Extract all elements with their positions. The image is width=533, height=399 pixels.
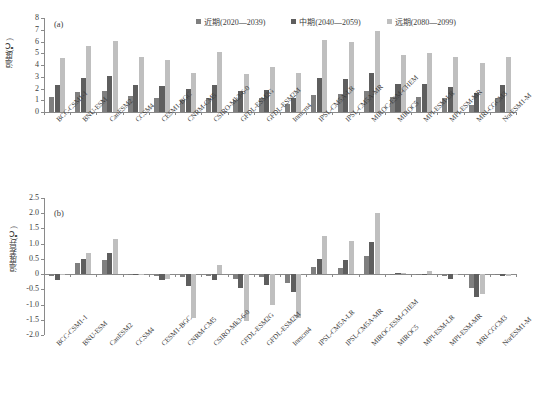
y-tick-label: 0 bbox=[10, 108, 39, 116]
bar bbox=[427, 271, 432, 274]
bar bbox=[349, 241, 354, 274]
chart-panel-a: 温度(℃) (a) 012345678 近期(2020—2039)中期(2040… bbox=[0, 0, 524, 190]
bar bbox=[375, 213, 380, 274]
bar bbox=[159, 86, 164, 112]
bar bbox=[364, 256, 369, 274]
bar bbox=[311, 267, 316, 275]
bar bbox=[390, 274, 395, 275]
bar bbox=[102, 260, 107, 274]
bar bbox=[322, 236, 327, 274]
bar bbox=[395, 273, 400, 275]
bar bbox=[453, 57, 458, 112]
bar bbox=[349, 42, 354, 112]
y-tick-label: 4 bbox=[10, 61, 39, 69]
y-tick-label: 2.0 bbox=[10, 209, 39, 217]
bar bbox=[422, 274, 427, 275]
bar bbox=[442, 274, 447, 276]
bar bbox=[191, 274, 196, 318]
y-tick-label: -2.0 bbox=[10, 331, 39, 339]
bar bbox=[212, 274, 217, 280]
bar bbox=[217, 52, 222, 112]
bar bbox=[186, 274, 191, 286]
bar bbox=[238, 274, 243, 288]
bar bbox=[159, 274, 164, 280]
bar bbox=[506, 274, 511, 276]
legend-item-1: 中期(2040—2059) bbox=[291, 16, 360, 27]
legend-swatch-icon bbox=[196, 19, 201, 24]
bar bbox=[448, 274, 453, 279]
bar bbox=[217, 265, 222, 274]
y-tick-label: -0.5 bbox=[10, 285, 39, 293]
bar bbox=[495, 274, 500, 275]
bar bbox=[49, 274, 54, 276]
bar bbox=[139, 57, 144, 112]
bar bbox=[113, 41, 118, 112]
bar bbox=[317, 78, 322, 112]
bar bbox=[259, 274, 264, 277]
y-tick-label: 2 bbox=[10, 85, 39, 93]
bar bbox=[474, 274, 479, 297]
bar bbox=[338, 268, 343, 274]
y-tick-label: 0.5 bbox=[10, 255, 39, 263]
bar bbox=[139, 274, 144, 275]
y-tick-label: 7 bbox=[10, 26, 39, 34]
bar bbox=[60, 58, 65, 112]
y-tick-label: 1.5 bbox=[10, 224, 39, 232]
bar bbox=[55, 274, 60, 280]
legend-swatch-icon bbox=[291, 19, 296, 24]
bar bbox=[500, 274, 505, 276]
bar bbox=[480, 63, 485, 112]
bar bbox=[469, 274, 474, 288]
y-tick-label: 1.0 bbox=[10, 240, 39, 248]
x-tick-mark bbox=[44, 112, 45, 115]
bar bbox=[311, 95, 316, 112]
bar bbox=[60, 274, 65, 275]
bar bbox=[427, 53, 432, 112]
bar bbox=[270, 274, 275, 304]
bar bbox=[375, 31, 380, 112]
bar bbox=[133, 274, 138, 275]
legend-item-2: 远期(2080—2099) bbox=[387, 16, 456, 27]
bar bbox=[81, 259, 86, 274]
bar bbox=[317, 259, 322, 274]
y-tick-label: 3 bbox=[10, 73, 39, 81]
bar bbox=[422, 84, 427, 112]
bar bbox=[49, 97, 54, 112]
bar bbox=[107, 253, 112, 274]
bar bbox=[107, 76, 112, 112]
bar bbox=[133, 85, 138, 112]
y-tick-label: -1.0 bbox=[10, 301, 39, 309]
bar bbox=[191, 73, 196, 112]
chart-panel-b: 温度差异(℃) (b) 2.52.01.51.00.50-0.5-1.0-1.5… bbox=[0, 190, 524, 399]
y-tick-label: 5 bbox=[10, 49, 39, 57]
panel-b-plot-area bbox=[44, 198, 516, 335]
legend-label: 远期(2080—2099) bbox=[395, 16, 456, 27]
legend-label: 近期(2020—2039) bbox=[204, 16, 265, 27]
bar bbox=[86, 253, 91, 274]
bar bbox=[206, 274, 211, 276]
bar bbox=[86, 46, 91, 112]
y-tick-label: 8 bbox=[10, 14, 39, 22]
bar bbox=[401, 273, 406, 275]
y-tick-label: 2.5 bbox=[10, 194, 39, 202]
bar bbox=[480, 274, 485, 294]
bar bbox=[343, 260, 348, 274]
bar bbox=[165, 274, 170, 279]
chart-legend: 近期(2020—2039)中期(2040—2059)远期(2080—2099) bbox=[196, 16, 456, 27]
bar bbox=[165, 60, 170, 112]
bar bbox=[285, 274, 290, 283]
y-tick-label: -1.5 bbox=[10, 316, 39, 324]
bar bbox=[233, 274, 238, 279]
bar bbox=[113, 239, 118, 274]
bar bbox=[369, 242, 374, 274]
bar bbox=[416, 274, 421, 275]
legend-label: 中期(2040—2059) bbox=[299, 16, 360, 27]
bar bbox=[154, 274, 159, 276]
bar bbox=[322, 40, 327, 112]
bar bbox=[75, 263, 80, 274]
x-tick-mark bbox=[516, 274, 517, 277]
bar bbox=[55, 85, 60, 112]
y-tick-label: 1 bbox=[10, 96, 39, 104]
y-tick-mark bbox=[41, 335, 44, 336]
